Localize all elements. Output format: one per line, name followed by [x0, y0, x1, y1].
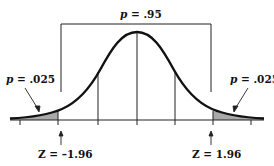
- sd-lines: [58, 32, 213, 120]
- z-arrows: [59, 131, 213, 145]
- center-probability-label: p = .95: [120, 8, 162, 20]
- right-tail-probability-label: p = .025: [230, 73, 274, 85]
- left-z-label: Z = –1.96: [38, 148, 93, 160]
- left-tail-probability-label: p = .025: [6, 73, 55, 85]
- right-z-label: Z = 1.96: [192, 148, 241, 160]
- center-bracket: [61, 24, 211, 92]
- axis-ticks: [20, 120, 251, 125]
